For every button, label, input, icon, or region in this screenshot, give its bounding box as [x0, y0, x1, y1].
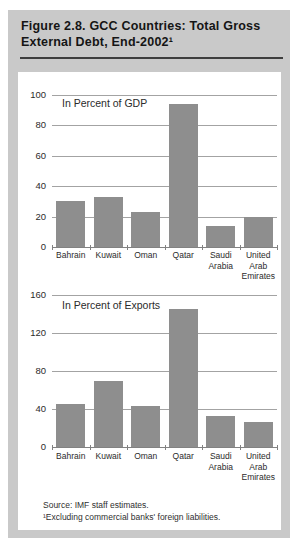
footnotes: Source: IMF staff estimates. ¹Excluding …	[43, 500, 273, 523]
bar-saudi-arabia	[206, 416, 235, 447]
title-rule	[20, 57, 283, 59]
axis-tick	[165, 445, 166, 450]
gridline	[52, 409, 277, 410]
source-note: Source: IMF staff estimates.	[43, 500, 273, 512]
x-category-label: UnitedArabEmirates	[235, 451, 281, 483]
y-tick-label: 0	[18, 442, 46, 452]
axis-tick	[90, 445, 91, 450]
figure-title: Figure 2.8. GCC Countries: Total Gross E…	[21, 19, 273, 50]
y-tick-label: 120	[18, 328, 46, 338]
axis-tick	[277, 445, 278, 450]
gridline	[52, 371, 277, 372]
y-tick-label: 160	[18, 290, 46, 300]
axis-tick	[52, 445, 53, 450]
axis-tick	[127, 445, 128, 450]
bar-kuwait	[94, 381, 123, 448]
bar-oman	[131, 406, 160, 447]
bar-qatar	[169, 309, 198, 447]
footnote-1: ¹Excluding commercial banks' foreign lia…	[43, 512, 273, 524]
axis-tick	[202, 445, 203, 450]
figure-frame: Figure 2.8. GCC Countries: Total Gross E…	[8, 10, 290, 538]
gridline	[52, 333, 277, 334]
chart-annotation: In Percent of Exports	[62, 299, 160, 311]
page: Figure 2.8. GCC Countries: Total Gross E…	[0, 0, 305, 559]
axis-tick	[240, 445, 241, 450]
y-tick-label: 80	[18, 366, 46, 376]
bar-bahrain	[56, 404, 85, 447]
gridline	[52, 295, 277, 296]
chart-percent-of-exports: 04080120160BahrainKuwaitOmanQatarSaudiAr…	[18, 72, 281, 530]
chart-panel: 020406080100BahrainKuwaitOmanQatarSaudiA…	[18, 72, 281, 530]
bar-united-arab-emirates	[244, 422, 273, 447]
y-tick-label: 40	[18, 404, 46, 414]
